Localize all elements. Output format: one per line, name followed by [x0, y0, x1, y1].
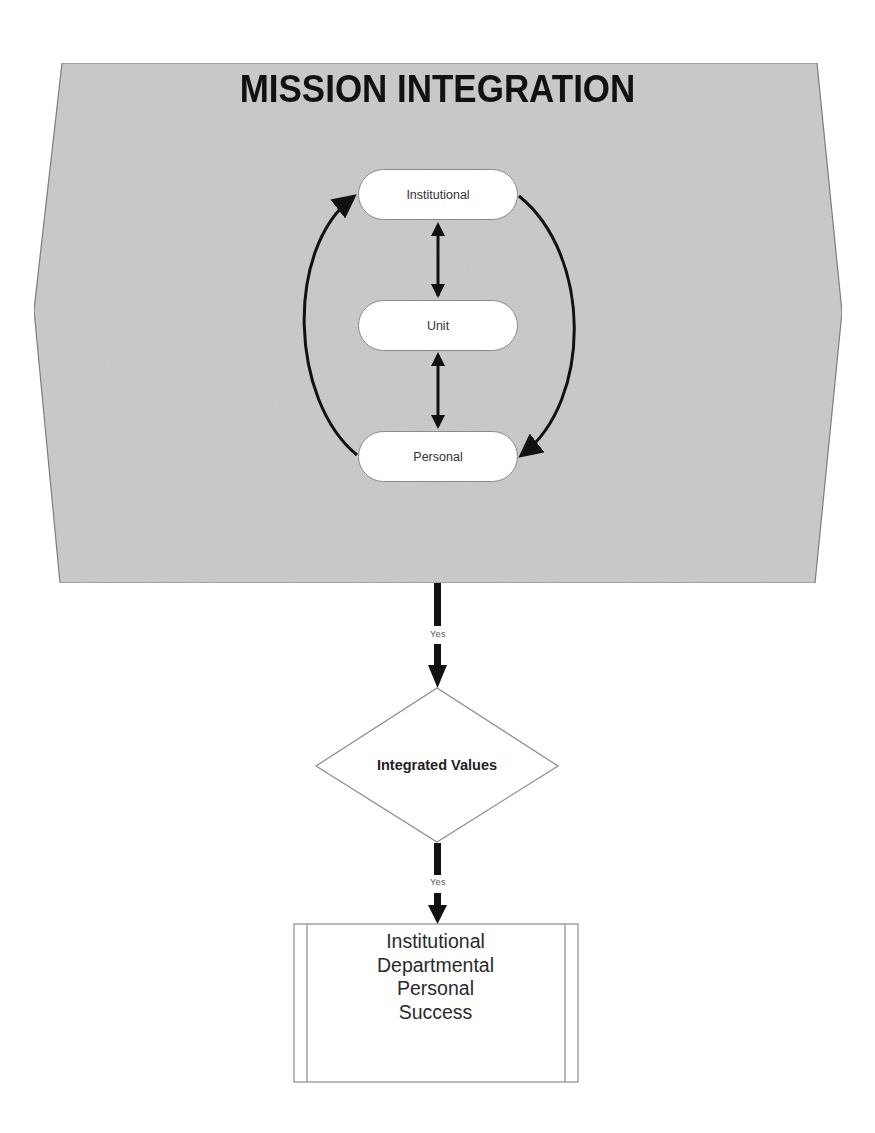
- node-unit: Unit: [358, 300, 518, 351]
- decision-label: Integrated Values: [316, 757, 558, 773]
- node-label: Institutional: [406, 188, 469, 202]
- node-label: Personal: [413, 450, 462, 464]
- node-institutional: Institutional: [358, 169, 518, 220]
- outcome-line: Institutional: [307, 930, 564, 954]
- node-label: Unit: [427, 319, 449, 333]
- connector-label-yes-2: Yes: [418, 877, 458, 887]
- outcome-text: Institutional Departmental Personal Succ…: [307, 930, 564, 1024]
- outcome-line: Success: [307, 1001, 564, 1025]
- outcome-line: Personal: [307, 977, 564, 1001]
- diagram-title: MISSION INTEGRATION: [35, 68, 840, 111]
- connector-label-yes-1: Yes: [418, 629, 458, 639]
- node-personal: Personal: [358, 431, 518, 482]
- outcome-line: Departmental: [307, 954, 564, 978]
